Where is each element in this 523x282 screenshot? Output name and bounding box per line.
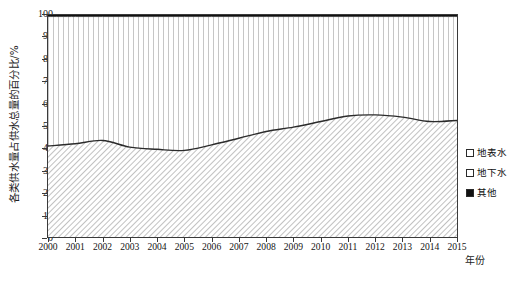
x-axis-title: 年份 bbox=[465, 252, 485, 267]
x-axis-tick-mark bbox=[239, 238, 240, 242]
x-axis-tick-mark bbox=[212, 238, 213, 242]
x-axis-tick-mark bbox=[348, 238, 349, 242]
x-axis-tick-mark bbox=[430, 238, 431, 242]
x-axis-tick-mark bbox=[321, 238, 322, 242]
x-axis-tick-mark bbox=[48, 238, 49, 242]
legend-label-ground-water: 地下水 bbox=[477, 168, 507, 178]
legend-item-surface-water: 地表水 bbox=[466, 147, 523, 158]
x-axis-tick-label: 2015 bbox=[437, 241, 477, 252]
chart-screenshot: 各类供水量占供水总量的百分比/% 1009080706050403020100 … bbox=[0, 0, 523, 282]
x-axis-tick-mark bbox=[266, 238, 267, 242]
legend-item-ground-water: 地下水 bbox=[466, 167, 523, 178]
x-axis-tick-mark bbox=[402, 238, 403, 242]
legend-swatch-vertical-icon bbox=[466, 169, 474, 177]
x-axis-tick-mark bbox=[293, 238, 294, 242]
legend-swatch-solid-icon bbox=[466, 189, 474, 197]
x-axis-tick-mark bbox=[184, 238, 185, 242]
x-axis-tick-mark bbox=[457, 238, 458, 242]
stacked-area-plot bbox=[48, 15, 457, 237]
x-axis-tick-mark bbox=[130, 238, 131, 242]
x-axis-tick-mark bbox=[157, 238, 158, 242]
chart-legend: 地表水 地下水 其他 bbox=[466, 147, 523, 207]
legend-item-other: 其他 bbox=[466, 187, 523, 198]
x-axis-tick-mark bbox=[375, 238, 376, 242]
y-axis-title: 各类供水量占供水总量的百分比/% bbox=[8, 6, 20, 242]
x-axis-tick-mark bbox=[103, 238, 104, 242]
plot-area bbox=[47, 14, 458, 238]
y-axis-tick-mark bbox=[42, 238, 47, 239]
legend-swatch-diagonal-icon bbox=[466, 149, 474, 157]
legend-label-other: 其他 bbox=[477, 188, 497, 198]
legend-label-surface-water: 地表水 bbox=[477, 148, 507, 158]
x-axis-tick-mark bbox=[75, 238, 76, 242]
